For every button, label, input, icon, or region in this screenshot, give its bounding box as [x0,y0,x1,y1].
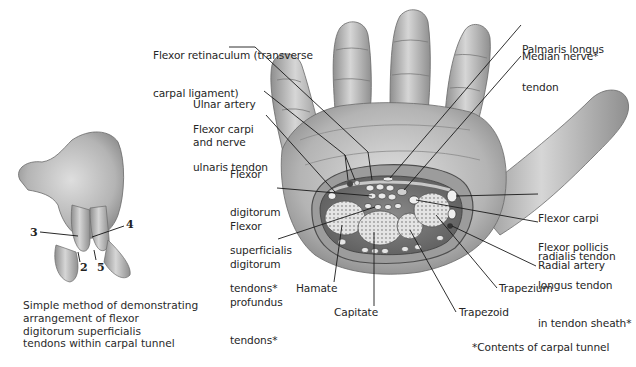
label-line: Flexor carpi [193,123,268,136]
label-line: tendons* [230,334,283,347]
median-nerve [397,189,407,196]
finger-number-5: 5 [97,261,105,274]
label-fdp-tendons: Flexor digitorum profundus tendons* [230,195,283,367]
label-hamate: Hamate [296,282,337,295]
finger-number-3: 3 [30,226,38,239]
fcr-tendon [447,190,457,202]
index-finger [445,24,490,122]
carpal-tunnel-cross-section [312,165,473,264]
caption-line: tendons within carpal tunnel [23,337,198,350]
capitate-bone [358,211,402,245]
caption-line: arrangement of flexor [23,312,198,325]
label-line: profundus [230,296,283,309]
caption-line: Simple method of demonstrating [23,299,198,312]
footnote: *Contents of carpal tunnel [472,341,609,354]
figure-stage: Flexor retinaculum (transverse carpal li… [0,0,636,367]
label-trapezoid: Trapezoid [459,306,509,319]
label-line: Flexor [230,168,292,181]
label-line: Flexor [230,220,283,233]
label-palmaris-longus: Palmaris longus tendon [522,18,604,119]
inset-hand-demonstration [19,132,131,282]
radial-artery [447,223,453,229]
label-flexor-carpi-radialis: Flexor carpi radialis tendon [538,187,616,288]
label-line: in tendon sheath* [538,317,631,330]
caption-line: digitorum superficialis [23,325,198,338]
label-line: digitorum [230,258,283,271]
label-line: tendon [522,81,604,94]
label-median-nerve: Median nerve* [522,50,598,63]
ring-finger [333,22,371,115]
label-line: radialis tendon [538,250,616,263]
inset-caption: Simple method of demonstrating arrangeme… [23,299,198,350]
trapezium-bone [414,193,450,227]
label-line: Flexor carpi [538,212,616,225]
middle-finger [390,10,430,112]
finger-number-2: 2 [80,261,88,274]
label-line: Flexor retinaculum (transverse [153,49,313,62]
finger-number-4: 4 [126,218,134,231]
label-capitate: Capitate [334,306,378,319]
